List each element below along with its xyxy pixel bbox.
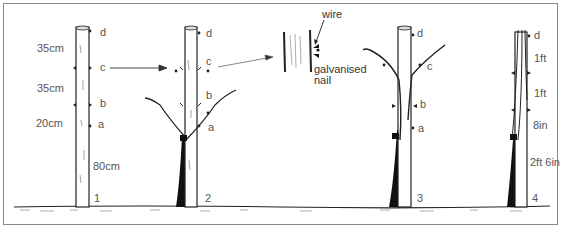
spacing-1ft-mid: 1ft — [534, 88, 546, 99]
post4-label-d: d — [534, 30, 540, 41]
spacing-8in: 8in — [533, 120, 548, 131]
illustration — [0, 0, 562, 230]
post-2 — [145, 26, 236, 207]
spacing-80cm: 80cm — [93, 161, 120, 172]
post-4 — [507, 30, 531, 207]
post3-label-d: d — [417, 28, 423, 39]
post3-number: 3 — [417, 193, 423, 204]
post2-label-b: b — [206, 90, 212, 101]
post2-label-c: c — [206, 56, 212, 67]
post1-number: 1 — [94, 193, 100, 204]
post3-label-a: a — [418, 123, 424, 134]
post1-label-b: b — [100, 98, 106, 109]
spacing-20cm: 20cm — [36, 118, 63, 129]
spacing-1ft-top: 1ft — [534, 53, 546, 64]
post-1 — [73, 26, 92, 207]
spacing-35cm-mid: 35cm — [37, 83, 64, 94]
post-3 — [363, 26, 445, 207]
post1-label-d: d — [100, 27, 106, 38]
inset-nail-label-2: nail — [314, 75, 331, 86]
arrow-to-inset — [218, 55, 273, 67]
spacing-35cm-top: 35cm — [37, 43, 64, 54]
post2-label-d: d — [206, 28, 212, 39]
post2-label-a: a — [208, 122, 214, 133]
post1-label-a: a — [98, 119, 104, 130]
ground-line — [14, 206, 550, 211]
post2-number: 2 — [205, 193, 211, 204]
post3-label-c: c — [427, 61, 433, 72]
post3-label-b: b — [420, 99, 426, 110]
post4-number: 4 — [532, 193, 538, 204]
spacing-2ft-6in: 2ft 6in — [530, 157, 560, 168]
arrow-to-post-2 — [110, 65, 167, 71]
post1-label-c: c — [100, 62, 106, 73]
inset-wire-label: wire — [322, 9, 342, 20]
